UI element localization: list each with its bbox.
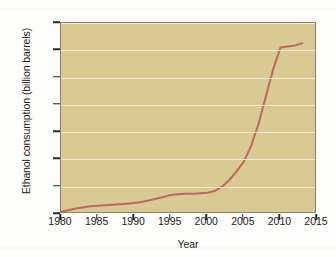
y-axis-title: Ethanol consumption (billion barrels)	[20, 11, 32, 211]
gridline-horizontal	[61, 159, 315, 160]
x-tick-label: 2015	[296, 215, 336, 227]
y-tick-mark	[53, 158, 60, 160]
chart-figure: Ethanol consumption (billion barrels) Ye…	[0, 0, 336, 257]
x-tick-label: 1995	[150, 215, 190, 227]
y-tick-mark	[53, 103, 60, 105]
y-tick-mark	[53, 21, 60, 23]
y-tick-mark	[53, 185, 60, 187]
y-tick-mark	[53, 130, 60, 132]
x-tick-label: 1980	[40, 215, 80, 227]
gridline-horizontal	[61, 50, 315, 51]
x-axis-title: Year	[60, 238, 316, 250]
y-tick-mark	[53, 76, 60, 78]
x-tick-label: 1990	[113, 215, 153, 227]
y-tick-mark	[53, 49, 60, 51]
gridline-horizontal	[61, 105, 315, 106]
x-tick-label: 2000	[186, 215, 226, 227]
x-tick-label: 1985	[77, 215, 117, 227]
gridline-horizontal	[61, 23, 315, 24]
gridline-horizontal	[61, 78, 315, 79]
gridline-horizontal	[61, 132, 315, 133]
x-tick-label: 2010	[259, 215, 299, 227]
plot-area	[60, 22, 316, 213]
x-tick-label: 2005	[223, 215, 263, 227]
data-series-line	[61, 23, 317, 214]
gridline-horizontal	[61, 187, 315, 188]
